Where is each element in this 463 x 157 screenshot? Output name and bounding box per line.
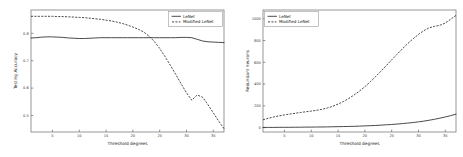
y-tick-label: 600: [253, 61, 261, 65]
x-tick-label: 20: [362, 134, 367, 138]
x-axis-label: Threshold degrees: [107, 141, 149, 146]
y-tick-label: 0.7: [23, 59, 29, 63]
y-tick-label: 800: [253, 39, 261, 43]
legend-label-lenet: LeNet: [183, 14, 195, 19]
figure-container: 51015202530350.50.60.70.8Threshold degre…: [0, 0, 463, 157]
y-tick-label: 0.5: [23, 114, 29, 118]
plot-frame: [263, 10, 456, 132]
series-line-lenet: [263, 114, 456, 127]
y-tick-label: 0: [258, 126, 261, 130]
x-tick-label: 25: [389, 134, 394, 138]
x-tick-label: 35: [442, 134, 447, 138]
y-tick-label: 1000: [251, 17, 261, 21]
x-tick-label: 30: [416, 134, 421, 138]
right-chart-svg: 510152025303502004006008001000Threshold …: [232, 0, 463, 157]
y-tick-label: 400: [253, 82, 261, 86]
y-axis-label: Testing Accuracy: [13, 53, 18, 91]
x-tick-label: 35: [211, 134, 216, 138]
legend-label-modified-lenet: Modified LeNet: [279, 19, 310, 24]
x-tick-label: 5: [283, 134, 285, 138]
series-line-modified-lenet: [263, 15, 456, 119]
y-tick-label: 0.6: [23, 86, 29, 90]
series-line-modified-lenet: [31, 16, 224, 128]
x-tick-label: 15: [335, 134, 340, 138]
legend-label-modified-lenet: Modified LeNet: [183, 19, 214, 24]
x-tick-label: 10: [77, 134, 82, 138]
x-tick-label: 15: [104, 134, 109, 138]
chart-panel-left: 51015202530350.50.60.70.8Threshold degre…: [0, 0, 232, 157]
x-tick-label: 20: [131, 134, 136, 138]
chart-panel-right: 510152025303502004006008001000Threshold …: [232, 0, 463, 157]
x-axis-label: Threshold degrees: [338, 141, 380, 146]
y-axis-label: Redundant neurons: [244, 49, 249, 92]
x-tick-label: 25: [157, 134, 162, 138]
series-line-lenet: [31, 37, 224, 43]
plot-frame: [31, 10, 224, 132]
legend-label-lenet: LeNet: [279, 14, 291, 19]
left-chart-svg: 51015202530350.50.60.70.8Threshold degre…: [0, 0, 232, 157]
y-tick-label: 0.8: [23, 32, 29, 36]
x-tick-label: 5: [51, 134, 53, 138]
x-tick-label: 30: [184, 134, 189, 138]
x-tick-label: 10: [308, 134, 313, 138]
y-tick-label: 200: [253, 104, 261, 108]
